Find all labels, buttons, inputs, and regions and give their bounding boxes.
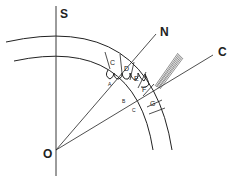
axis-n-line: [56, 34, 156, 150]
label-n: N: [160, 25, 169, 39]
brush-icon: [155, 53, 183, 89]
axis-c-line: [56, 55, 213, 150]
outer-ring-arc: [6, 36, 172, 150]
label-s: S: [60, 7, 68, 21]
segment-label-g: G: [150, 100, 155, 107]
segment-label-d: D: [124, 65, 129, 72]
coil-label-b: B: [122, 98, 126, 104]
label-o: O: [43, 147, 52, 161]
diagram-canvas: C D E F G A B C S N C O: [0, 0, 232, 179]
coil-label-c: C: [132, 107, 136, 113]
segment-label-c: C: [110, 59, 115, 66]
label-c: C: [218, 45, 227, 59]
